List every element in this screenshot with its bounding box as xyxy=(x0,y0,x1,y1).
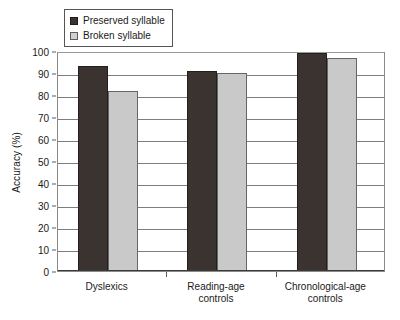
x-axis-category-label-line: Chronological-age xyxy=(285,281,366,293)
x-axis-category-label-line: controls xyxy=(187,293,244,305)
y-axis-tick-mark xyxy=(52,118,56,119)
bar-group xyxy=(167,53,276,271)
x-axis-category-label: Dyslexics xyxy=(86,281,128,293)
bar xyxy=(78,66,108,271)
x-axis-category-label: Chronological-agecontrols xyxy=(285,281,366,305)
y-axis-tick-mark xyxy=(52,52,56,53)
y-axis-title-text: Accuracy (%) xyxy=(11,132,22,193)
y-axis-tick-mark xyxy=(52,162,56,163)
x-axis-tick-mark xyxy=(166,272,167,277)
x-axis-baseline xyxy=(58,270,384,271)
y-axis-tick-label: 0 xyxy=(43,267,49,278)
bar-chart-figure: Accuracy (%) 1009080706050403020100 Dysl… xyxy=(0,0,400,320)
y-axis-tick-label: 90 xyxy=(38,69,49,80)
bar-group xyxy=(277,53,386,271)
y-axis-tick-label: 20 xyxy=(38,223,49,234)
legend-item-label: Broken syllable xyxy=(83,30,151,41)
legend-swatch-icon xyxy=(70,32,78,40)
y-axis-tick-label: 50 xyxy=(38,157,49,168)
y-axis-tick-mark xyxy=(52,96,56,97)
y-axis-tick-mark xyxy=(52,228,56,229)
y-axis-tick-mark xyxy=(52,272,56,273)
legend-item: Broken syllable xyxy=(70,28,165,43)
bar xyxy=(297,53,327,271)
y-axis-tick-label: 70 xyxy=(38,113,49,124)
x-axis-category-label-line: Dyslexics xyxy=(86,281,128,293)
y-axis-tick-mark xyxy=(52,140,56,141)
chart-legend: Preserved syllableBroken syllable xyxy=(64,9,173,47)
y-axis-tick-mark xyxy=(52,74,56,75)
x-axis-category-label-line: controls xyxy=(285,293,366,305)
plot-area xyxy=(57,52,385,272)
y-axis-tick-label: 10 xyxy=(38,245,49,256)
legend-swatch-icon xyxy=(70,17,78,25)
y-axis-tick-label: 60 xyxy=(38,135,49,146)
y-axis-tick-labels: 1009080706050403020100 xyxy=(24,52,52,272)
y-axis-tick-mark xyxy=(52,184,56,185)
bar xyxy=(327,58,357,271)
x-axis-tick-mark xyxy=(276,272,277,277)
legend-item: Preserved syllable xyxy=(70,13,165,28)
y-axis-tick-label: 100 xyxy=(32,47,49,58)
y-axis-tick-label: 30 xyxy=(38,201,49,212)
bar xyxy=(217,73,247,271)
y-axis-tick-mark xyxy=(52,250,56,251)
y-axis-tick-label: 80 xyxy=(38,91,49,102)
bar xyxy=(187,71,217,271)
x-axis-category-label-line: Reading-age xyxy=(187,281,244,293)
y-axis-tick-mark xyxy=(52,206,56,207)
x-axis-category-label: Reading-agecontrols xyxy=(187,281,244,305)
y-axis-title: Accuracy (%) xyxy=(8,52,24,272)
bar xyxy=(108,91,138,271)
bar-group xyxy=(58,53,167,271)
legend-item-label: Preserved syllable xyxy=(83,15,165,26)
y-axis-tick-label: 40 xyxy=(38,179,49,190)
